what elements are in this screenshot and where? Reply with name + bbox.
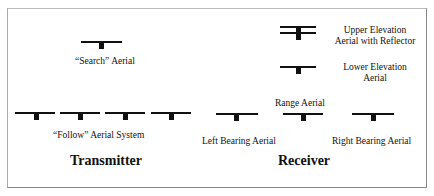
search-aerial-label: “Search” Aerial	[75, 56, 135, 67]
range-aerial-label: Range Aerial	[275, 98, 325, 109]
right-bearing-aerial-label: Right Bearing Aerial	[332, 136, 411, 147]
left-bearing-aerial-label: Left Bearing Aerial	[202, 136, 276, 147]
receiver-title: Receiver	[278, 153, 330, 169]
lower-elevation-label: Lower Elevation Aerial	[330, 62, 420, 84]
upper-elevation-label: Upper Elevation Aerial with Reflector	[330, 25, 420, 47]
follow-aerial-label: “Follow” Aerial System	[53, 130, 144, 141]
transmitter-title: Transmitter	[70, 153, 142, 169]
